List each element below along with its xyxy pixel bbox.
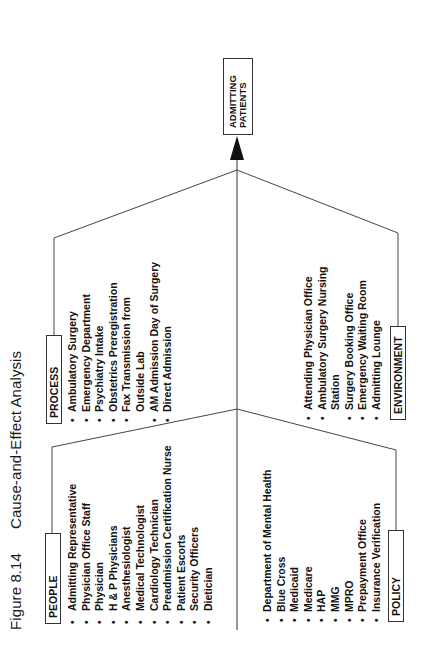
cause-item: MPRO <box>343 470 357 622</box>
cause-item-continuation: Station <box>329 266 343 420</box>
cause-item: Anesthesiologist <box>120 445 134 624</box>
cause-item: AM Admission Day of Surgery <box>148 262 162 422</box>
cause-item: Insurance Verification <box>370 470 384 622</box>
cause-item: Surgery Booking Office <box>343 266 357 420</box>
cause-item: Psychiatry Intake <box>93 262 107 422</box>
cause-item: Emergency Waiting Room <box>356 266 370 420</box>
cause-item: Patient Escorts <box>175 445 189 624</box>
arrowhead-icon <box>230 136 244 160</box>
cause-item: Direct Admission <box>161 262 175 422</box>
category-box-environment: ENVIRONMENT <box>390 326 406 420</box>
cause-item: Physician Office Staff <box>80 445 94 624</box>
category-label-people: PEOPLE <box>47 575 59 618</box>
people-cause-list: Admitting Representative Physician Offic… <box>66 445 216 624</box>
figure-number: Figure 8.14 <box>7 553 24 630</box>
cause-item: Medicaid <box>288 470 302 622</box>
cause-item: Dietician <box>202 445 216 624</box>
cause-item: HAP <box>315 470 329 622</box>
category-label-process: PROCESS <box>48 367 60 418</box>
cause-item: Department of Mental Health <box>261 470 275 622</box>
figure-title: Cause-and-Effect Analysis <box>7 351 24 529</box>
fishbone-diagram: Figure 8.14Cause-and-Effect Analysis ADM… <box>0 0 429 657</box>
effect-box: ADMITTING PATIENTS <box>223 58 253 135</box>
cause-item: Admitting Lounge <box>370 266 384 420</box>
category-label-policy: POLICY <box>390 577 402 616</box>
cause-item: Emergency Department <box>80 262 94 422</box>
category-box-process: PROCESS <box>46 335 62 424</box>
cause-item-continuation: Outside Lab <box>134 262 148 422</box>
cause-item: Preadmission Certification Nurse <box>161 445 175 624</box>
cause-item: Physician <box>93 445 107 624</box>
category-box-policy: POLICY <box>388 530 404 622</box>
category-box-people: PEOPLE <box>45 533 61 624</box>
effect-label-line2: PATIENTS <box>238 59 248 128</box>
cause-item: Obstetrics Preregistration <box>107 262 121 422</box>
cause-item: Ambulatory Surgery Nursing <box>316 266 330 420</box>
cause-item: Medical Technologist <box>134 445 148 624</box>
cause-item: Attending Physician Office <box>302 266 316 420</box>
process-cause-list: Ambulatory Surgery Emergency Department … <box>66 262 175 422</box>
cause-item: Security Officers <box>188 445 202 624</box>
cause-item: MMG <box>329 470 343 622</box>
environment-cause-list: Attending Physician Office Ambulatory Su… <box>302 266 384 420</box>
cause-item: Ambulatory Surgery <box>66 262 80 422</box>
figure-caption: Figure 8.14Cause-and-Effect Analysis <box>7 351 24 630</box>
cause-item: Fax Transmission from <box>120 262 134 422</box>
cause-item: H & P Physicians <box>107 445 121 624</box>
policy-cause-list: Department of Mental Health Blue Cross M… <box>261 470 383 622</box>
cause-item: Prepayment Office <box>356 470 370 622</box>
cause-item: Blue Cross <box>275 470 289 622</box>
cause-item: Admitting Representative <box>66 445 80 624</box>
cause-item: Cardiology Technician <box>148 445 162 624</box>
category-label-environment: ENVIRONMENT <box>392 336 404 414</box>
cause-item: Medicare <box>302 470 316 622</box>
